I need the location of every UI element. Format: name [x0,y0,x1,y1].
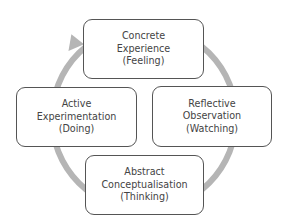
stage-subtitle: Conceptualisation [101,179,187,192]
stage-active-experimentation: Active Experimentation (Doing) [16,87,137,147]
stage-abstract-conceptualisation: Abstract Conceptualisation (Thinking) [85,155,204,215]
stage-mode: (Doing) [59,123,95,136]
stage-title: Concrete [122,30,165,43]
stage-mode: (Watching) [186,123,238,136]
stage-subtitle: Experience [117,43,171,56]
stage-subtitle: Observation [183,110,241,123]
stage-reflective-observation: Reflective Observation (Watching) [152,86,272,147]
stage-mode: (Thinking) [120,191,169,204]
stage-concrete-experience: Concrete Experience (Feeling) [83,19,204,79]
stage-title: Abstract [124,166,164,179]
stage-subtitle: Experimentation [37,111,117,124]
stage-title: Reflective [188,98,235,111]
stage-mode: (Feeling) [123,55,165,68]
stage-title: Active [62,98,92,111]
